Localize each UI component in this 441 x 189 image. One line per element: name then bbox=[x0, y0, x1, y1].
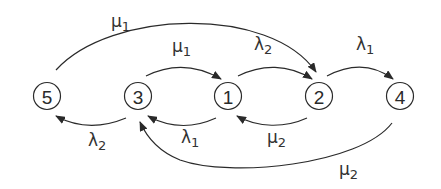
edge-1-to-2 bbox=[238, 67, 312, 79]
state-node-4: 4 bbox=[387, 83, 414, 110]
node-label: 3 bbox=[133, 87, 144, 108]
state-node-1: 1 bbox=[215, 83, 242, 110]
edge-2-to-1 bbox=[237, 116, 307, 125]
label-4-to-3: μ2 bbox=[339, 159, 358, 182]
edge-4-to-3 bbox=[140, 122, 392, 168]
node-label: 5 bbox=[42, 87, 53, 108]
edge-1-to-3 bbox=[148, 116, 216, 125]
label-1-to-3: λ1 bbox=[181, 127, 199, 150]
node-label: 1 bbox=[223, 87, 234, 108]
label-2-to-4: λ1 bbox=[356, 34, 374, 57]
state-node-2: 2 bbox=[306, 83, 333, 110]
label-5-to-2: μ1 bbox=[111, 11, 130, 34]
state-node-5: 5 bbox=[34, 83, 61, 110]
node-label: 4 bbox=[395, 87, 406, 108]
label-3-to-5: λ2 bbox=[88, 130, 106, 153]
state-diagram: 5 3 1 2 4 μ1 μ1 λ2 λ1 λ2 λ1 μ2 μ2 bbox=[0, 0, 441, 189]
edge-3-to-1 bbox=[146, 67, 221, 79]
state-node-3: 3 bbox=[125, 83, 152, 110]
node-label: 2 bbox=[314, 87, 325, 108]
edge-3-to-5 bbox=[56, 116, 126, 125]
edge-2-to-4 bbox=[327, 67, 393, 79]
label-3-to-1: μ1 bbox=[172, 36, 191, 59]
label-2-to-1: μ2 bbox=[267, 127, 286, 150]
